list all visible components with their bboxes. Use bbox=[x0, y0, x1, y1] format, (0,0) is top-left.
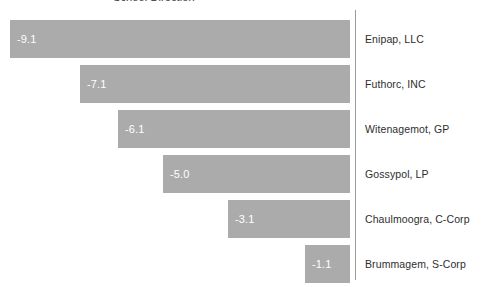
bar-value-label: -1.1 bbox=[312, 259, 331, 270]
bar[interactable]: -5.0 bbox=[163, 155, 350, 193]
category-label: Witenagemot, GP bbox=[365, 123, 449, 135]
bar-chart: School Direction -9.1 Enipap, LLC -7.1 F… bbox=[0, 0, 483, 287]
bar[interactable]: -7.1 bbox=[80, 65, 350, 103]
category-label: Chaulmoogra, C-Corp bbox=[365, 213, 470, 225]
bar[interactable]: -1.1 bbox=[305, 245, 350, 283]
bar-value-label: -6.1 bbox=[125, 124, 144, 135]
bar-row: -7.1 Futhorc, INC bbox=[0, 65, 483, 103]
bar-value-label: -3.1 bbox=[235, 214, 254, 225]
bar-value-label: -5.0 bbox=[170, 169, 189, 180]
chart-title: School Direction bbox=[113, 0, 373, 3]
bar-row: -5.0 Gossypol, LP bbox=[0, 155, 483, 193]
bar-row: -1.1 Brummagem, S-Corp bbox=[0, 245, 483, 283]
bar-row: -6.1 Witenagemot, GP bbox=[0, 110, 483, 148]
bar[interactable]: -3.1 bbox=[228, 200, 350, 238]
bar-value-label: -9.1 bbox=[17, 34, 36, 45]
category-label: Gossypol, LP bbox=[365, 168, 429, 180]
bar[interactable]: -9.1 bbox=[10, 20, 350, 58]
bar-value-label: -7.1 bbox=[87, 79, 106, 90]
category-label: Brummagem, S-Corp bbox=[365, 258, 466, 270]
category-label: Enipap, LLC bbox=[365, 33, 424, 45]
bar[interactable]: -6.1 bbox=[118, 110, 350, 148]
bar-row: -9.1 Enipap, LLC bbox=[0, 20, 483, 58]
bar-row: -3.1 Chaulmoogra, C-Corp bbox=[0, 200, 483, 238]
category-label: Futhorc, INC bbox=[365, 78, 426, 90]
